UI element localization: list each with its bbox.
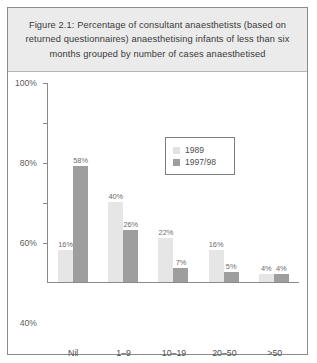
x-category-label: 20–50 [200,348,248,358]
y-tick-mark: 40% [43,203,47,204]
bar-1997-98-1019[interactable]: 7% [173,268,188,282]
x-category-label: Nil [49,348,97,358]
bar-value-label: 58% [73,156,88,165]
bar-1989-19[interactable]: 40% [108,202,123,282]
legend-label-1989: 1989 [185,145,204,155]
y-tick-label: 80% [20,158,37,168]
bar-value-label: 16% [58,240,73,249]
y-tick-label: 100% [15,78,37,88]
bar-value-label: 5% [226,262,237,271]
bar-value-label: 4% [261,264,272,273]
x-axis-line [47,282,299,283]
bar-1997-98-2050[interactable]: 5% [224,272,239,282]
bar-group: 40%26% [108,83,138,282]
x-category-label: 1–9 [100,348,148,358]
y-tick-mark: 20% [43,243,47,244]
legend-swatch-icon-1989 [173,147,180,154]
bar-value-label: 7% [176,258,187,267]
bar-value-label: 16% [209,240,224,249]
bar-1997-98-50[interactable]: 4% [274,274,289,282]
bar-group: 16%58% [58,83,88,282]
plot-area: 20%40%60%80%100% 16%58%40%26%22%7%16%5%4… [47,83,299,283]
figure-title-band: Figure 2.1: Percentage of consultant ana… [8,8,307,72]
bar-group: 16%5% [209,83,239,282]
x-category-label: >50 [251,348,299,358]
bar-1989-1019[interactable]: 22% [158,238,173,282]
bar-1989-50[interactable]: 4% [259,274,274,282]
y-tick-label: 40% [20,318,37,328]
legend-item-1989: 1989 [173,145,227,155]
y-tick-mark: 80% [43,123,47,124]
legend-item-1997-98: 1997/98 [173,157,227,167]
bar-1989-2050[interactable]: 16% [209,250,224,282]
bar-value-label: 22% [159,228,174,237]
y-tick-mark: 100% [43,83,47,84]
chart-legend: 1989 1997/98 [165,137,235,175]
bar-value-label: 26% [123,220,138,229]
legend-swatch-icon-1997-98 [173,159,180,166]
figure-title: Figure 2.1: Percentage of consultant ana… [8,18,307,61]
legend-label-1997-98: 1997/98 [185,157,216,167]
bar-1997-98-Nil[interactable]: 58% [73,166,88,282]
bars-layer: 16%58%40%26%22%7%16%5%4%4% [48,83,299,282]
x-category-label: 10–19 [150,348,198,358]
bar-value-label: 4% [276,264,287,273]
bar-1989-Nil[interactable]: 16% [58,250,73,282]
x-axis-category-labels: Nil1–910–1920–50>50 [48,348,300,358]
y-tick-label: 60% [20,238,37,248]
bar-value-label: 40% [108,192,123,201]
figure-container: Figure 2.1: Percentage of consultant ana… [7,7,308,355]
bar-1997-98-19[interactable]: 26% [123,230,138,282]
bar-group: 22%7% [158,83,188,282]
chart-body: 20%40%60%80%100% 16%58%40%26%22%7%16%5%4… [8,72,307,354]
y-tick-mark: 60% [43,163,47,164]
bar-group: 4%4% [259,83,289,282]
